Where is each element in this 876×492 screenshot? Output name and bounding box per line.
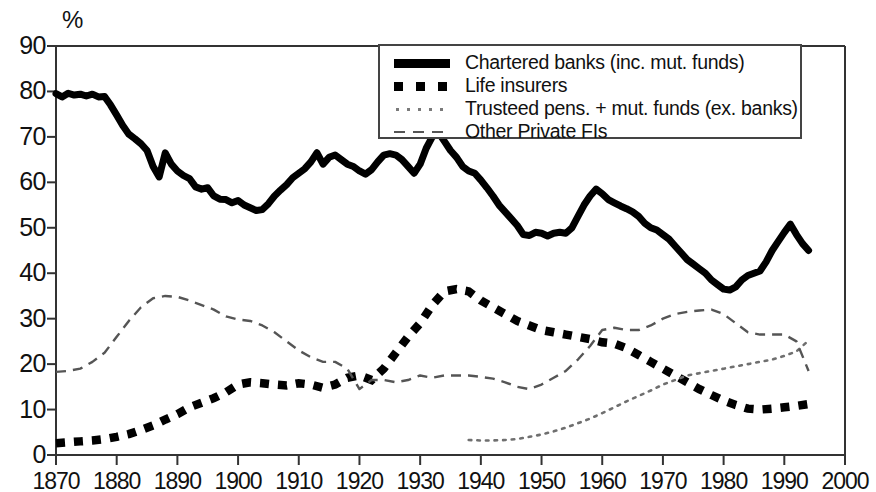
y-tick-label: 40 — [0, 260, 46, 285]
y-tick-label: 70 — [0, 124, 46, 149]
legend-label: Chartered banks (inc. mut. funds) — [465, 52, 744, 72]
data-series — [56, 93, 809, 443]
series-line — [56, 296, 809, 389]
legend-item: Life insurers — [380, 74, 800, 96]
legend-item: Other Private FIs — [380, 120, 800, 142]
y-tick-label: 30 — [0, 306, 46, 331]
y-tick-label: 0 — [0, 442, 46, 467]
legend-swatch-solid-thick — [392, 53, 454, 71]
y-tick-label: 80 — [0, 78, 46, 103]
y-tick-label: 50 — [0, 215, 46, 240]
x-tick-label: 2000 — [808, 470, 876, 492]
legend-swatch-dotted — [392, 99, 454, 117]
y-tick-label: 10 — [0, 397, 46, 422]
chart-figure: % 9080706050403020100 187018801890190019… — [0, 0, 876, 492]
legend-swatch-squares — [392, 76, 454, 94]
y-tick-label: 60 — [0, 169, 46, 194]
legend-label: Other Private FIs — [465, 121, 607, 141]
legend-item: Chartered banks (inc. mut. funds) — [380, 51, 800, 73]
y-tick-label: 90 — [0, 33, 46, 58]
chart-legend: Chartered banks (inc. mut. funds)Life in… — [378, 44, 802, 139]
legend-item: Trusteed pens. + mut. funds (ex. banks) — [380, 97, 800, 119]
legend-label: Trusteed pens. + mut. funds (ex. banks) — [465, 98, 798, 118]
legend-swatch-dashed — [392, 122, 454, 140]
series-line — [56, 289, 809, 443]
y-tick-label: 20 — [0, 351, 46, 376]
legend-label: Life insurers — [465, 75, 567, 95]
